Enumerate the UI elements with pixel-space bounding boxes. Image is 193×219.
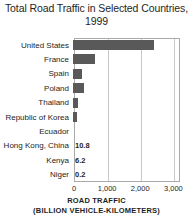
category-label: United States xyxy=(0,41,72,50)
bar xyxy=(73,112,77,122)
bar-value-label: 10.8 xyxy=(75,141,90,150)
road-traffic-bar-chart: Total Road Traffic in Selected Countries… xyxy=(0,0,193,219)
x-axis-label: ROAD TRAFFIC (BILLION VEHICLE-KILOMETERS… xyxy=(0,196,193,216)
bar-row: United States xyxy=(0,38,193,52)
bar-track: 0.2 xyxy=(73,168,178,182)
bar-track xyxy=(73,38,178,52)
bar-value-label: 0.2 xyxy=(75,170,85,179)
bar xyxy=(73,40,154,50)
bar-track xyxy=(73,81,178,95)
x-tick-label: 3,000 xyxy=(164,184,183,193)
bar-track: 6.2 xyxy=(73,153,178,167)
bar-row: Kenya6.2 xyxy=(0,153,193,167)
bar-row: Spain xyxy=(0,67,193,81)
bar-track xyxy=(73,96,178,110)
x-tick-label: 0 xyxy=(72,184,76,193)
bar xyxy=(73,98,78,108)
category-label: Hong Kong, China xyxy=(0,141,72,150)
bar xyxy=(73,54,95,64)
category-label: Thailand xyxy=(0,98,72,107)
bar-row: Ecuador xyxy=(0,124,193,138)
bar-track: 10.8 xyxy=(73,139,178,153)
x-axis-label-line2: (BILLION VEHICLE-KILOMETERS) xyxy=(0,206,193,216)
category-label: Poland xyxy=(0,84,72,93)
bar-row: Republic of Korea xyxy=(0,110,193,124)
bar xyxy=(73,83,84,93)
bar-row: Poland xyxy=(0,81,193,95)
bar-track xyxy=(73,110,178,124)
bar-value-label: 6.2 xyxy=(75,156,85,165)
category-label: Kenya xyxy=(0,156,72,165)
category-label: Ecuador xyxy=(0,127,72,136)
bar-track xyxy=(73,124,178,138)
category-label: Republic of Korea xyxy=(0,113,72,122)
bar xyxy=(73,69,82,79)
category-label: Niger xyxy=(0,170,72,179)
bar-row: Hong Kong, China10.8 xyxy=(0,139,193,153)
x-axis-ticks: 01,0002,0003,000 xyxy=(0,184,193,194)
category-label: Spain xyxy=(0,69,72,78)
bar-track xyxy=(73,67,178,81)
bar-row: Thailand xyxy=(0,96,193,110)
x-tick-label: 2,000 xyxy=(131,184,150,193)
bar-row: France xyxy=(0,52,193,66)
chart-title-line2: 1999 xyxy=(0,15,193,28)
chart-title: Total Road Traffic in Selected Countries… xyxy=(0,2,193,27)
bar-row: Niger0.2 xyxy=(0,168,193,182)
chart-title-line1: Total Road Traffic in Selected Countries… xyxy=(0,2,193,15)
bar-track xyxy=(73,52,178,66)
x-tick-label: 1,000 xyxy=(98,184,117,193)
category-label: France xyxy=(0,55,72,64)
bar-rows: United StatesFranceSpainPolandThailandRe… xyxy=(0,38,193,182)
x-axis-label-line1: ROAD TRAFFIC xyxy=(0,196,193,206)
